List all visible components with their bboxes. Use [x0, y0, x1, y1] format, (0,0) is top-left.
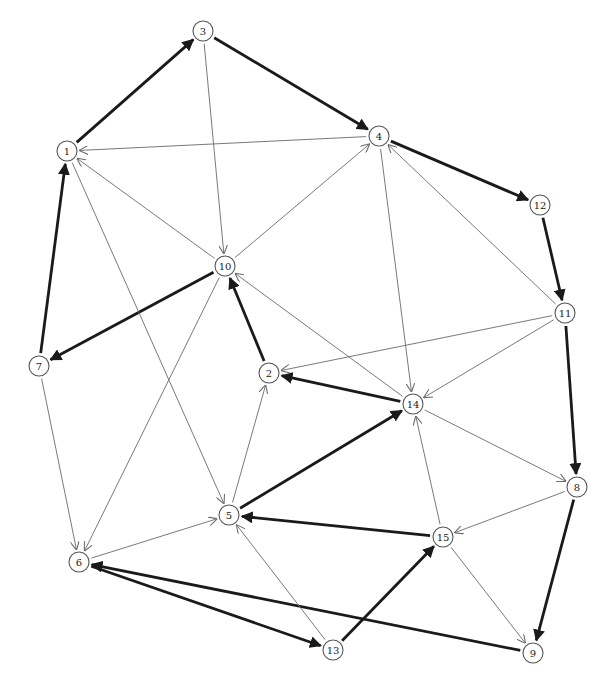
- edge-5-to-14: [240, 411, 402, 509]
- edge-10-to-4: [235, 144, 369, 257]
- node-label: 7: [36, 361, 42, 372]
- node-7: 7: [29, 356, 49, 376]
- node-label: 14: [407, 399, 420, 410]
- edge-1-to-3: [77, 40, 194, 143]
- edge-6-to-13: [91, 566, 320, 645]
- node-label: 13: [327, 645, 340, 656]
- node-8: 8: [567, 477, 587, 497]
- edges-layer: [41, 38, 576, 651]
- node-6: 6: [69, 552, 89, 572]
- node-label: 2: [266, 368, 272, 379]
- node-1: 1: [57, 141, 77, 161]
- edge-1-to-5: [72, 163, 223, 503]
- edge-4-to-1: [80, 137, 366, 151]
- edge-9-to-6: [92, 565, 521, 651]
- edge-10-to-6: [85, 278, 219, 551]
- edge-5-to-2: [233, 386, 266, 503]
- node-label: 8: [574, 482, 580, 493]
- node-label: 11: [559, 308, 572, 319]
- node-12: 12: [530, 195, 550, 215]
- node-label: 4: [376, 131, 382, 142]
- node-9: 9: [523, 643, 543, 663]
- edge-15-to-5: [242, 516, 430, 535]
- node-5: 5: [219, 505, 239, 525]
- node-4: 4: [369, 126, 389, 146]
- edge-8-to-15: [455, 492, 565, 533]
- node-10: 10: [215, 256, 235, 276]
- edge-14-to-2: [282, 376, 401, 402]
- edge-4-to-14: [381, 149, 412, 391]
- edge-11-to-2: [282, 316, 553, 371]
- edge-10-to-7: [51, 272, 214, 360]
- node-label: 15: [437, 532, 450, 543]
- directed-graph: 123456789101112131415: [0, 0, 604, 684]
- edge-15-to-14: [416, 417, 440, 525]
- nodes-layer: 123456789101112131415: [29, 21, 587, 663]
- edge-13-to-15: [342, 546, 434, 640]
- node-14: 14: [403, 394, 423, 414]
- node-15: 15: [433, 527, 453, 547]
- edge-11-to-14: [424, 320, 554, 398]
- edge-14-to-8: [425, 410, 566, 481]
- node-11: 11: [555, 303, 575, 323]
- edge-3-to-4: [214, 38, 368, 130]
- node-label: 1: [64, 146, 70, 157]
- edge-7-to-6: [42, 379, 77, 550]
- edge-6-to-5: [91, 519, 216, 558]
- edge-7-to-1: [41, 164, 66, 353]
- edge-15-to-9: [451, 547, 525, 642]
- node-13: 13: [323, 640, 343, 660]
- node-3: 3: [193, 21, 213, 41]
- node-label: 6: [76, 557, 82, 568]
- edge-12-to-11: [543, 218, 562, 301]
- edge-8-to-9: [536, 500, 573, 641]
- edge-11-to-8: [566, 326, 576, 474]
- edge-4-to-12: [391, 141, 528, 200]
- edge-11-to-4: [388, 145, 555, 304]
- node-label: 10: [219, 261, 232, 272]
- node-label: 9: [530, 648, 536, 659]
- edge-10-to-1: [78, 159, 215, 259]
- node-label: 5: [226, 510, 232, 521]
- edge-3-to-10: [204, 44, 224, 253]
- node-2: 2: [259, 363, 279, 383]
- node-label: 3: [200, 26, 206, 37]
- node-label: 12: [534, 200, 547, 211]
